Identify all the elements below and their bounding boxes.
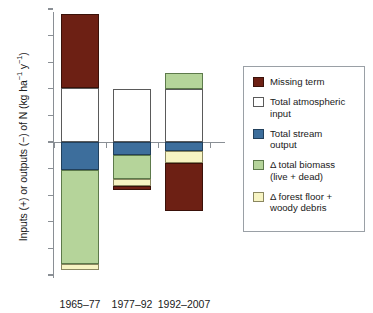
bar-segment-biomass[interactable] bbox=[113, 155, 151, 179]
y-axis-title: Inputs (+) or outputs (−) of N (kg ha−1 … bbox=[15, 22, 29, 272]
x-tick-mark bbox=[210, 142, 211, 148]
y-tick-mark bbox=[48, 274, 53, 275]
bar-1977-92[interactable] bbox=[113, 12, 151, 280]
legend-swatch-floor bbox=[253, 192, 264, 202]
y-tick-mark bbox=[48, 35, 53, 36]
bar-1992-2007[interactable] bbox=[165, 12, 203, 280]
x-tick-mark bbox=[54, 142, 55, 148]
bar-segment-biomass[interactable] bbox=[61, 170, 99, 265]
y-tick-mark bbox=[48, 221, 53, 222]
bar-segment-missing[interactable] bbox=[165, 163, 203, 211]
y-tick-mark bbox=[48, 88, 53, 89]
plot-area: 2520151050−5−10−15−20−25 1965–771977–921… bbox=[53, 12, 225, 280]
legend: Missing termTotal atmospheric inputTotal… bbox=[243, 66, 365, 232]
legend-item-missing[interactable]: Missing term bbox=[253, 76, 357, 88]
legend-item-atmos[interactable]: Total atmospheric input bbox=[253, 96, 357, 119]
chart-figure: Inputs (+) or outputs (−) of N (kg ha−1 … bbox=[0, 0, 373, 313]
legend-label-biomass: Δ total biomass (live + dead) bbox=[270, 159, 335, 182]
legend-item-biomass[interactable]: Δ total biomass (live + dead) bbox=[253, 159, 357, 182]
bar-segment-missing[interactable] bbox=[61, 14, 99, 87]
legend-label-missing: Missing term bbox=[270, 76, 324, 88]
bar-segment-floor[interactable] bbox=[165, 151, 203, 163]
y-axis-title-post: ) bbox=[17, 52, 29, 55]
y-tick-mark bbox=[48, 141, 53, 142]
bar-segment-floor[interactable] bbox=[113, 179, 151, 185]
legend-swatch-biomass bbox=[253, 160, 264, 170]
y-axis-title-sup1: −1 bbox=[15, 72, 24, 80]
legend-label-atmos: Total atmospheric input bbox=[270, 96, 345, 119]
y-axis-title-sup2: −1 bbox=[15, 56, 24, 64]
bar-segment-stream[interactable] bbox=[113, 142, 151, 155]
y-tick-mark bbox=[48, 115, 53, 116]
y-tick-mark bbox=[48, 8, 53, 9]
x-tick-mark bbox=[106, 142, 107, 148]
legend-label-floor: Δ forest floor + woody debris bbox=[270, 191, 332, 214]
legend-swatch-atmos bbox=[253, 97, 264, 107]
legend-label-stream: Total stream output bbox=[270, 128, 322, 151]
legend-swatch-missing bbox=[253, 77, 264, 87]
bar-1965-77[interactable] bbox=[61, 12, 99, 280]
bar-segment-stream[interactable] bbox=[165, 142, 203, 151]
y-axis-title-mid: y bbox=[17, 64, 29, 72]
y-axis-title-pre: Inputs (+) or outputs (−) of N (kg ha bbox=[17, 80, 29, 241]
bar-segment-missing[interactable] bbox=[113, 186, 151, 190]
x-tick-mark bbox=[158, 142, 159, 148]
legend-swatch-stream bbox=[253, 129, 264, 139]
y-tick-mark bbox=[48, 248, 53, 249]
bar-segment-atmos[interactable] bbox=[61, 88, 99, 142]
y-tick-mark bbox=[48, 168, 53, 169]
legend-item-floor[interactable]: Δ forest floor + woody debris bbox=[253, 191, 357, 214]
bar-segment-floor[interactable] bbox=[61, 264, 99, 269]
legend-item-stream[interactable]: Total stream output bbox=[253, 128, 357, 151]
bar-segment-atmos[interactable] bbox=[165, 89, 203, 142]
bar-segment-stream[interactable] bbox=[61, 142, 99, 170]
bar-segment-atmos[interactable] bbox=[113, 89, 151, 142]
x-axis-label-3: 1992–2007 bbox=[144, 298, 224, 310]
y-tick-mark bbox=[48, 62, 53, 63]
y-tick-mark bbox=[48, 195, 53, 196]
bar-segment-biomass[interactable] bbox=[165, 73, 203, 89]
